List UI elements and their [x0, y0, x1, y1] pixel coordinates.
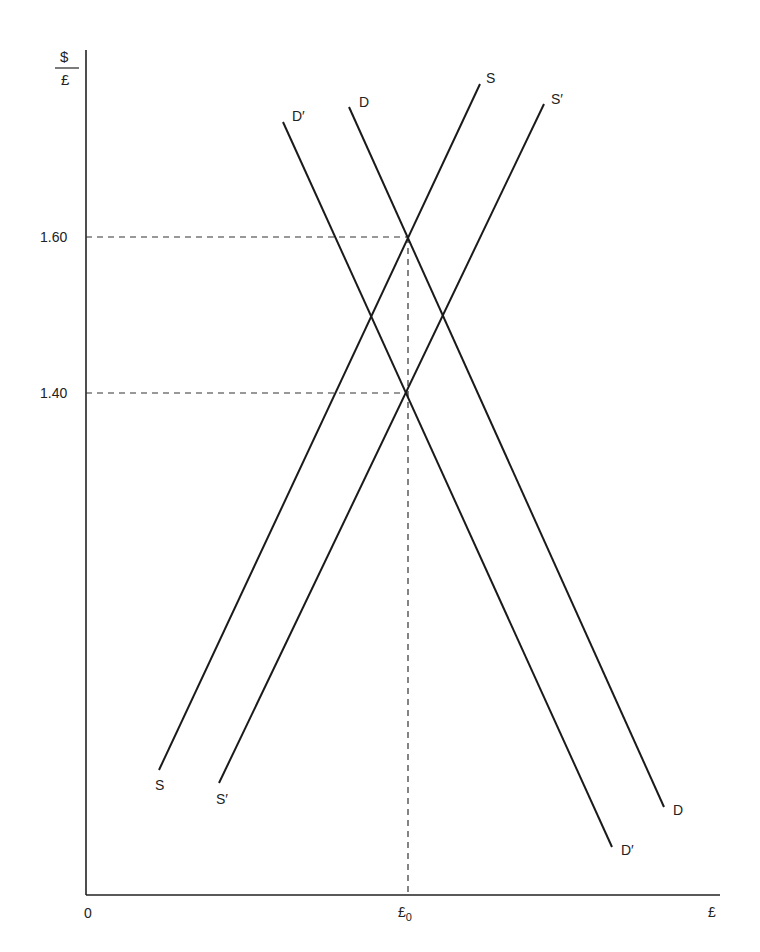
label-D-prime-bottom: D′ — [621, 843, 634, 857]
label-D-bottom: D — [673, 803, 683, 817]
label-S-prime-top: S′ — [551, 92, 563, 106]
y-tick-1-40: 1.40 — [40, 386, 67, 400]
y-label-numerator: $ — [60, 49, 68, 64]
label-D-top: D — [359, 95, 369, 109]
origin-label: 0 — [84, 906, 92, 920]
chart-canvas — [0, 0, 760, 952]
label-D-prime-top: D′ — [292, 109, 305, 123]
x-marker-q0: £0 — [398, 905, 412, 923]
y-label-denominator: £ — [61, 72, 69, 87]
label-S-bottom: S — [155, 778, 164, 792]
x-marker-sub: 0 — [406, 911, 412, 923]
supply-curve-S — [159, 84, 480, 770]
supply-curve-S-prime — [219, 104, 544, 783]
label-S-top: S — [486, 71, 495, 85]
x-marker-base: £ — [398, 904, 406, 920]
demand-curve-D-prime — [283, 122, 612, 847]
label-S-prime-bottom: S′ — [216, 792, 228, 806]
x-axis-label: £ — [708, 905, 716, 919]
demand-curve-D — [349, 107, 664, 807]
y-tick-1-60: 1.60 — [40, 230, 67, 244]
